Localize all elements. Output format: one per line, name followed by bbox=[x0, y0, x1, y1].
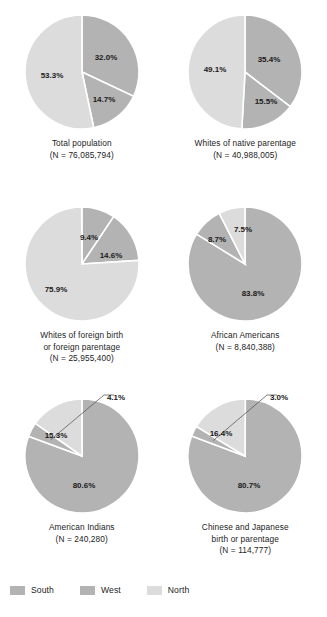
chart-legend: SouthWestNorth bbox=[10, 585, 317, 595]
pie-art-chinese-and-japanese-birth-or-parentage: 80.7%3.0%16.4% bbox=[164, 384, 327, 524]
pie-chart-grid: 32.0%14.7%53.3%Total population(N = 76,0… bbox=[0, 0, 327, 576]
caption-line: birth or parentage bbox=[164, 534, 327, 546]
pie-art-american-indians: 80.6%4.1%15.3% bbox=[0, 384, 164, 524]
legend-item-north: North bbox=[147, 585, 190, 595]
pie-slice-label-north: 15.3% bbox=[44, 431, 67, 440]
pie-chart-figure: 32.0%14.7%53.3%Total population(N = 76,0… bbox=[0, 0, 327, 617]
pie-svg-african-americans: 83.8%8.7%7.5% bbox=[181, 200, 309, 328]
pie-panel-american-indians: 80.6%4.1%15.3%American Indians(N = 240,2… bbox=[0, 384, 164, 576]
pie-slice-label-west: 3.0% bbox=[270, 393, 288, 402]
legend-swatch-west bbox=[80, 586, 95, 595]
pie-slice-label-south: 32.0% bbox=[94, 53, 117, 62]
caption-line: Chinese and Japanese bbox=[164, 522, 327, 534]
caption-line: Whites of foreign birth bbox=[0, 330, 164, 342]
legend-label: South bbox=[31, 585, 54, 595]
pie-slice-label-west: 15.5% bbox=[255, 97, 278, 106]
pie-caption-whites-of-foreign-birth-or-foreign-parentage: Whites of foreign birthor foreign parent… bbox=[0, 330, 164, 365]
pie-slice-label-north: 7.5% bbox=[234, 225, 252, 234]
pie-art-african-americans: 83.8%8.7%7.5% bbox=[164, 192, 327, 332]
caption-line: (N = 114,777) bbox=[164, 545, 327, 557]
pie-panel-whites-of-foreign-birth-or-foreign-parentage: 9.4%14.6%75.9%Whites of foreign birthor … bbox=[0, 192, 164, 384]
pie-panel-whites-of-native-parentage: 35.4%15.5%49.1%Whites of native parentag… bbox=[164, 0, 327, 192]
pie-slice-label-west: 4.1% bbox=[107, 393, 125, 402]
pie-slice-label-south: 80.6% bbox=[72, 481, 95, 490]
legend-label: North bbox=[168, 585, 190, 595]
legend-label: West bbox=[101, 585, 121, 595]
pie-art-whites-of-foreign-birth-or-foreign-parentage: 9.4%14.6%75.9% bbox=[0, 192, 164, 332]
caption-line: (N = 240,280) bbox=[0, 534, 164, 546]
pie-panel-total-population: 32.0%14.7%53.3%Total population(N = 76,0… bbox=[0, 0, 164, 192]
pie-slice-label-west: 14.7% bbox=[92, 95, 115, 104]
pie-svg-chinese-and-japanese-birth-or-parentage: 80.7%3.0%16.4% bbox=[181, 392, 309, 520]
pie-panel-chinese-and-japanese-birth-or-parentage: 80.7%3.0%16.4%Chinese and Japanesebirth … bbox=[164, 384, 327, 576]
caption-line: (N = 76,085,794) bbox=[0, 150, 164, 162]
pie-art-whites-of-native-parentage: 35.4%15.5%49.1% bbox=[164, 0, 327, 140]
pie-slice-label-north: 75.9% bbox=[44, 285, 67, 294]
pie-slice-label-south: 83.8% bbox=[242, 289, 265, 298]
pie-panel-african-americans: 83.8%8.7%7.5%African Americans(N = 8,840… bbox=[164, 192, 327, 384]
pie-svg-total-population: 32.0%14.7%53.3% bbox=[18, 8, 146, 136]
caption-line: (N = 8,840,388) bbox=[164, 342, 327, 354]
pie-svg-whites-of-native-parentage: 35.4%15.5%49.1% bbox=[181, 8, 309, 136]
pie-slice-label-north: 53.3% bbox=[40, 71, 63, 80]
pie-caption-total-population: Total population(N = 76,085,794) bbox=[0, 138, 164, 161]
legend-swatch-south bbox=[10, 586, 25, 595]
caption-line: Total population bbox=[0, 138, 164, 150]
caption-line: African Americans bbox=[164, 330, 327, 342]
pie-slice-label-south: 35.4% bbox=[258, 55, 281, 64]
caption-line: Whites of native parentage bbox=[164, 138, 327, 150]
pie-slice-label-north: 49.1% bbox=[204, 65, 227, 74]
pie-caption-american-indians: American Indians(N = 240,280) bbox=[0, 522, 164, 545]
pie-caption-chinese-and-japanese-birth-or-parentage: Chinese and Japanesebirth or parentage(N… bbox=[164, 522, 327, 557]
pie-art-total-population: 32.0%14.7%53.3% bbox=[0, 0, 164, 140]
pie-svg-american-indians: 80.6%4.1%15.3% bbox=[18, 392, 146, 520]
caption-line: or foreign parentage bbox=[0, 342, 164, 354]
legend-item-south: South bbox=[10, 585, 54, 595]
caption-line: American Indians bbox=[0, 522, 164, 534]
pie-caption-whites-of-native-parentage: Whites of native parentage(N = 40,988,00… bbox=[164, 138, 327, 161]
pie-slice-label-north: 16.4% bbox=[210, 429, 233, 438]
pie-caption-african-americans: African Americans(N = 8,840,388) bbox=[164, 330, 327, 353]
legend-swatch-north bbox=[147, 586, 162, 595]
legend-item-west: West bbox=[80, 585, 121, 595]
caption-line: (N = 40,988,005) bbox=[164, 150, 327, 162]
pie-slice-label-south: 80.7% bbox=[238, 481, 261, 490]
pie-slice-label-west: 8.7% bbox=[208, 235, 226, 244]
caption-line: (N = 25,955,400) bbox=[0, 353, 164, 365]
pie-slice-label-south: 9.4% bbox=[80, 233, 98, 242]
pie-svg-whites-of-foreign-birth-or-foreign-parentage: 9.4%14.6%75.9% bbox=[18, 200, 146, 328]
pie-slice-label-west: 14.6% bbox=[99, 251, 122, 260]
